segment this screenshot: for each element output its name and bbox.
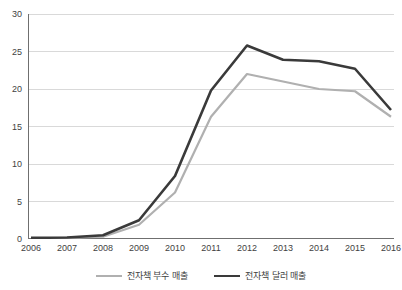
plot-area (28, 14, 394, 239)
x-tick-label: 2010 (165, 243, 185, 254)
legend-label: 전자책 부수 매출 (127, 271, 188, 282)
y-tick-label: 15 (12, 122, 22, 131)
series-line-2 (31, 46, 391, 238)
y-tick-label: 25 (12, 47, 22, 56)
x-tick-label: 2009 (129, 243, 149, 254)
plot-svg (28, 14, 394, 239)
legend-line-icon (96, 275, 122, 277)
x-tick-label: 2012 (237, 243, 257, 254)
y-tick-label: 5 (17, 197, 22, 206)
x-tick-label: 2006 (21, 243, 41, 254)
chart-legend: 전자책 부수 매출전자책 달러 매출 (0, 266, 402, 286)
line-chart: 051015202530 200620072008200920102011201… (0, 0, 402, 290)
x-tick-label: 2016 (381, 243, 401, 254)
x-tick-label: 2008 (93, 243, 113, 254)
y-axis: 051015202530 (0, 14, 26, 239)
y-tick-label: 20 (12, 85, 22, 94)
legend-line-icon (214, 275, 240, 277)
x-axis: 2006200720082009201020112012201320142015… (28, 243, 394, 257)
y-tick-label: 30 (12, 10, 22, 19)
x-tick-label: 2014 (309, 243, 329, 254)
legend-label: 전자책 달러 매출 (245, 271, 306, 282)
y-tick-label: 10 (12, 160, 22, 169)
x-tick-label: 2011 (201, 243, 220, 254)
x-tick-label: 2013 (273, 243, 293, 254)
gridlines (28, 14, 394, 202)
x-tick-label: 2015 (345, 243, 365, 254)
series-lines (31, 46, 391, 239)
legend-item-2[interactable]: 전자책 달러 매출 (214, 271, 306, 282)
x-tick-label: 2007 (57, 243, 77, 254)
legend-item-1[interactable]: 전자책 부수 매출 (96, 271, 188, 282)
series-line-1 (31, 74, 391, 238)
